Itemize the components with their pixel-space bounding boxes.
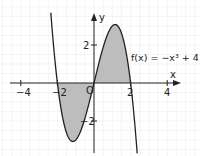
y-axis-arrow-icon xyxy=(91,13,97,21)
origin-label: O xyxy=(86,85,94,96)
x-tick-label-neg2: −2 xyxy=(52,87,67,98)
x-tick-label-4: 4 xyxy=(164,87,170,98)
x-tick-label-2: 2 xyxy=(127,87,133,98)
y-tick-label-2: 2 xyxy=(83,40,89,51)
x-axis-arrow-icon xyxy=(173,80,181,86)
function-plot: y x O −4 −2 2 4 2 −2 f(x) = −x³ + 4 x xyxy=(0,0,200,156)
y-axis-label: y xyxy=(99,12,105,23)
y-tick-label-neg2: −2 xyxy=(80,116,95,127)
shaded-area-positive xyxy=(94,25,131,84)
x-axis-label: x xyxy=(170,69,176,80)
x-tick-label-neg4: −4 xyxy=(16,87,31,98)
function-label: f(x) = −x³ + 4 x xyxy=(131,52,200,63)
